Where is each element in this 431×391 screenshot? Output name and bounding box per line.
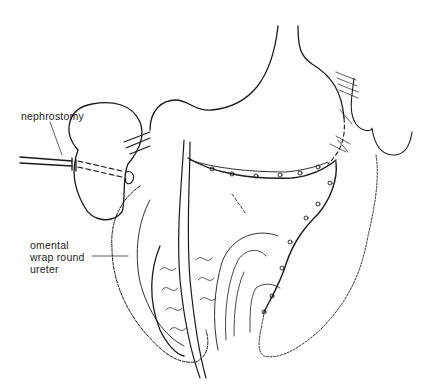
organ-right-edge bbox=[298, 26, 344, 118]
omental-wrap-label: omental wrap round ureter bbox=[30, 239, 85, 275]
omental-label-line-2: wrap round bbox=[30, 251, 85, 263]
colon-inner bbox=[137, 200, 184, 346]
suture-knots-right bbox=[262, 181, 332, 314]
colon-outline bbox=[112, 186, 208, 362]
right-lobe bbox=[351, 78, 412, 155]
bowel-loop-outer bbox=[215, 233, 278, 350]
nephrostomy-tube bbox=[20, 157, 72, 166]
nephrostomy-leader bbox=[50, 122, 62, 155]
stomach-outline bbox=[150, 26, 278, 130]
suture-line-right bbox=[264, 162, 336, 312]
renal-pelvis bbox=[125, 172, 133, 184]
bowel-loop-inner-1 bbox=[226, 250, 267, 340]
omental-wrap-texture bbox=[160, 257, 216, 330]
bowel-loop-inner-3 bbox=[250, 284, 280, 332]
bowel-loop-inner-2 bbox=[234, 272, 244, 336]
omental-label-line-3: ureter bbox=[30, 263, 85, 275]
illustration-canvas: nephrostomy omental wrap round ureter bbox=[0, 0, 431, 391]
organ-right-dashed bbox=[328, 118, 344, 164]
ureter-inner bbox=[188, 142, 206, 378]
surgical-diagram bbox=[0, 0, 431, 391]
mesentery-dashed bbox=[232, 194, 246, 214]
vessel-band bbox=[124, 132, 150, 154]
nephrostomy-label: nephrostomy bbox=[21, 110, 84, 122]
omental-flap-outline bbox=[259, 155, 377, 357]
omental-label-line-1: omental bbox=[30, 239, 85, 251]
nephrostomy-tube-dashed bbox=[78, 161, 122, 177]
